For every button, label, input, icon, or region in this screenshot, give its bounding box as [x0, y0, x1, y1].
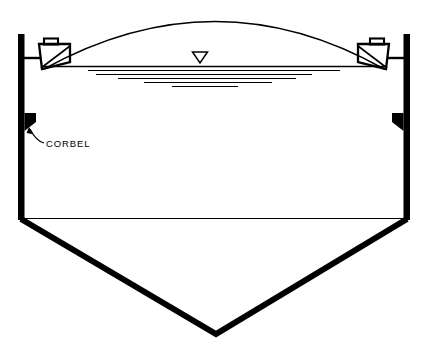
- right-tank-wall: [404, 34, 411, 220]
- diagram-background: [0, 0, 428, 349]
- engineering-diagram: CORBEL: [0, 0, 428, 349]
- left-tank-wall: [18, 34, 25, 220]
- diagram-canvas: CORBEL: [0, 0, 428, 349]
- corbel-label: CORBEL: [46, 138, 90, 149]
